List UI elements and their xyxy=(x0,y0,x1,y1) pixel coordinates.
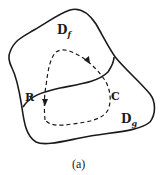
dividing-boundary xyxy=(23,57,114,107)
point-label-r: R xyxy=(25,91,35,104)
figure-caption: (a) xyxy=(72,157,85,171)
arrow-down-icon xyxy=(42,99,48,106)
region-label-df: Df xyxy=(57,23,72,39)
curve-c xyxy=(44,50,110,125)
arrow-up-right-icon xyxy=(84,56,90,64)
region-label-dg: Dg xyxy=(121,112,137,128)
curve-label-c: C xyxy=(111,90,120,103)
diagram-canvas: Df Dg R C (a) xyxy=(0,0,161,175)
